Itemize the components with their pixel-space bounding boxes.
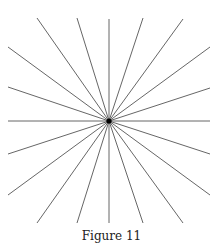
- ray-line: [109, 121, 210, 154]
- ray-line: [77, 121, 109, 223]
- ray-line: [109, 121, 183, 223]
- ray-line: [109, 19, 183, 121]
- ray-line: [109, 121, 143, 223]
- ray-line: [8, 47, 109, 121]
- radiating-lines-diagram: [0, 0, 223, 228]
- ray-line: [77, 18, 109, 121]
- center-point: [106, 118, 111, 123]
- ray-line: [37, 121, 109, 223]
- ray-line: [8, 121, 109, 195]
- ray-line: [37, 18, 109, 121]
- ray-line: [109, 47, 210, 121]
- ray-line: [8, 121, 109, 154]
- ray-line: [109, 18, 143, 121]
- figure-caption: Figure 11: [0, 229, 223, 243]
- ray-line: [109, 121, 210, 195]
- ray-line: [8, 87, 109, 121]
- ray-line: [109, 88, 210, 121]
